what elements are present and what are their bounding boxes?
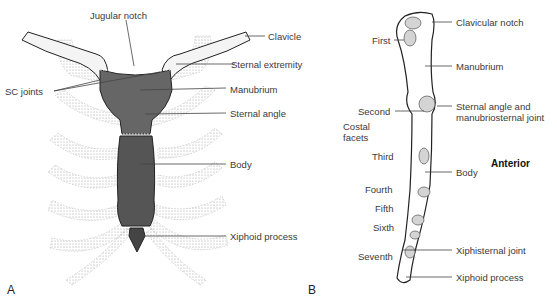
panel-letter-b: B <box>308 283 316 297</box>
label-body-b: Body <box>456 167 478 178</box>
xiphoid-shape <box>129 228 145 252</box>
label-second-facet: Second <box>358 106 390 117</box>
label-anterior: Anterior <box>491 158 530 169</box>
label-xiphisternal-joint: Xiphisternal joint <box>456 245 526 256</box>
label-third-facet: Third <box>372 151 394 162</box>
clavicles <box>22 32 250 80</box>
label-xiphoid-process-a: Xiphoid process <box>230 231 298 242</box>
label-sternal-angle: Sternal angle <box>230 108 286 119</box>
label-seventh-facet: Seventh <box>358 251 393 262</box>
label-costal: Costal <box>343 121 370 132</box>
label-xiphoid-process-b: Xiphoid process <box>456 272 524 283</box>
label-clavicular-notch: Clavicular notch <box>456 17 524 28</box>
label-fifth-facet: Fifth <box>375 203 393 214</box>
sternum-lateral-shape <box>397 12 436 282</box>
label-manubrium-a: Manubrium <box>230 84 278 95</box>
label-clavicle: Clavicle <box>268 31 301 42</box>
label-sternal-angle-b-line2: manubriosternal joint <box>456 112 544 123</box>
label-facets: facets <box>343 132 368 143</box>
label-sc-joints: SC joints <box>5 86 43 97</box>
label-manubrium-b: Manubrium <box>456 61 504 72</box>
label-fourth-facet: Fourth <box>365 184 392 195</box>
label-sternal-extremity: Sternal extremity <box>231 59 302 70</box>
label-first-facet: First <box>372 35 390 46</box>
sternum-diagram <box>0 0 557 304</box>
label-body-a: Body <box>230 159 252 170</box>
label-jugular-notch: Jugular notch <box>90 10 147 21</box>
manubrium-shape <box>100 70 172 134</box>
label-sternal-angle-b-line1: Sternal angle and <box>456 101 530 112</box>
label-sixth-facet: Sixth <box>373 222 394 233</box>
sternum-body-shape <box>117 136 154 226</box>
panel-letter-a: A <box>7 283 15 297</box>
